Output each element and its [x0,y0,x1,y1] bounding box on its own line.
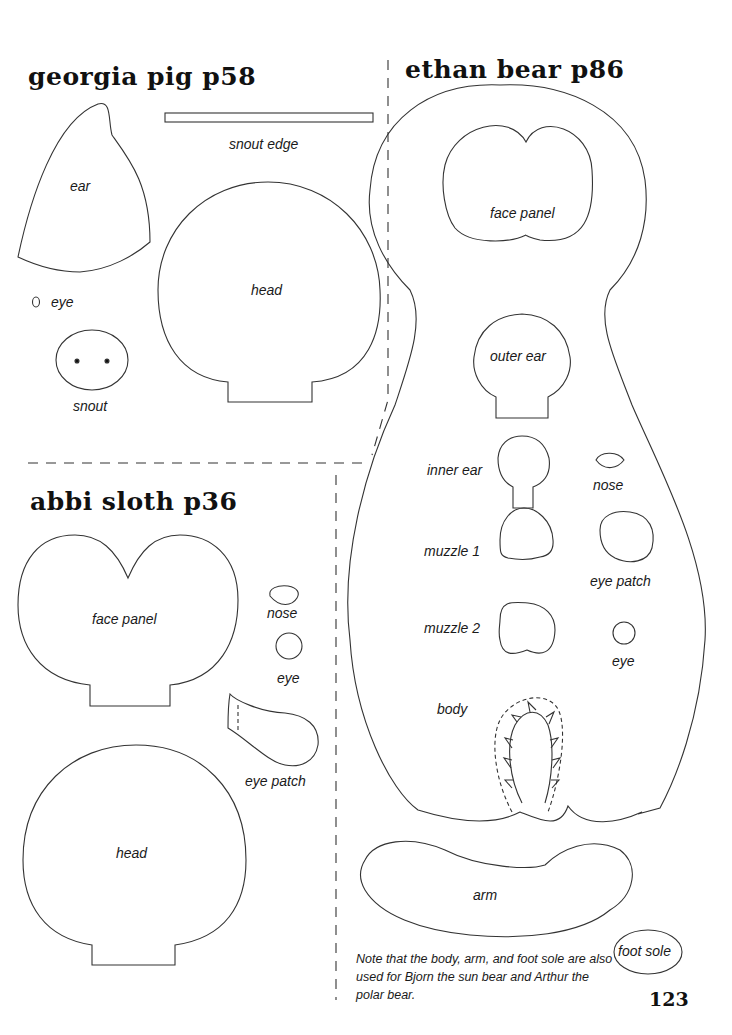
pig-eye-label: eye [51,294,74,310]
ethan-bear-title: ethan bear p86 [405,55,624,84]
pig-eye-shape [33,297,40,307]
pig-snout-edge-label: snout edge [229,136,298,152]
sloth-head-label: head [116,845,147,861]
bear-pattern-note: Note that the body, arm, and foot sole a… [356,950,616,1004]
bear-eye-label: eye [612,653,635,669]
sloth-eye-patch-shape [228,694,318,766]
bear-eye-shape [613,622,635,644]
sloth-nose-label: nose [267,605,297,621]
bear-body-shape [348,85,706,822]
bear-eye-patch-label: eye patch [590,573,651,589]
bear-arm-label: arm [473,887,497,903]
bear-face-panel-label: face panel [490,205,555,221]
bear-muzzle-1-label: muzzle 1 [424,543,480,559]
bear-nose-shape [596,453,624,467]
sloth-eye-shape [276,633,302,659]
bear-muzzle-1-shape [500,508,553,559]
georgia-pig-title: georgia pig p58 [28,62,256,91]
sloth-nose-shape [270,586,299,605]
pig-head-label: head [251,282,282,298]
sloth-eye-label: eye [277,670,300,686]
bear-foot-sole-label: foot sole [618,943,671,959]
bear-outer-ear-shape [474,314,571,418]
bear-face-panel-shape [443,126,592,241]
sloth-face-panel-label: face panel [92,611,157,627]
pig-snout-label: snout [73,398,107,414]
page-number: 123 [649,988,689,1010]
bear-inner-ear-label: inner ear [427,462,482,478]
sloth-eye-patch-label: eye patch [245,773,306,789]
pig-ear-label: ear [70,178,90,194]
bear-outer-ear-label: outer ear [490,348,546,364]
pig-snout-nostril-left [75,359,79,363]
bear-muzzle-2-shape [499,602,555,653]
bear-body-dart [510,712,552,803]
pig-snout-nostril-right [105,359,109,363]
pig-snout-shape [56,330,128,390]
pig-snout-edge-shape [165,113,373,122]
bear-eye-patch-shape [600,512,653,562]
pattern-sheet [0,0,732,1035]
bear-muzzle-2-label: muzzle 2 [424,620,480,636]
abbi-sloth-title: abbi sloth p36 [30,487,237,516]
bear-inner-ear-shape [498,436,549,508]
bear-nose-label: nose [593,477,623,493]
bear-body-label: body [437,701,467,717]
